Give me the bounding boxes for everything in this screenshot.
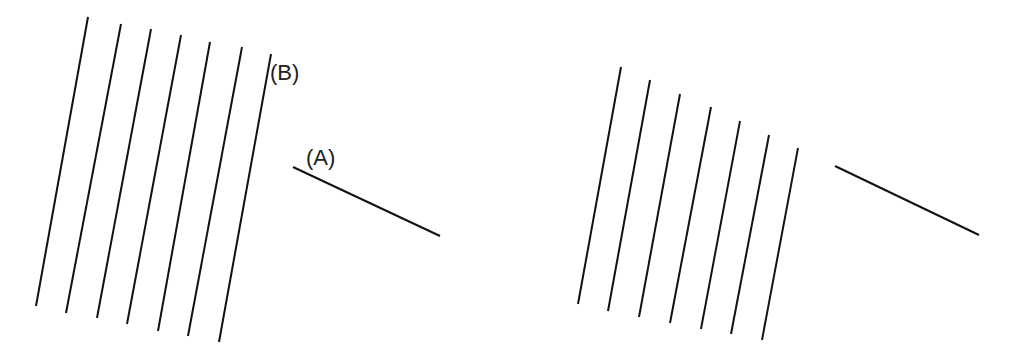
right-line-7 xyxy=(762,148,798,340)
label-a: (A) xyxy=(306,145,335,170)
figure-canvas: (B) (A) xyxy=(0,0,1011,362)
left-line-2 xyxy=(66,24,121,313)
left-line-7 xyxy=(219,54,271,342)
right-line-1 xyxy=(578,67,621,304)
left-line-5 xyxy=(158,42,210,331)
right-line-4 xyxy=(670,107,711,323)
left-segment-a xyxy=(293,167,440,236)
left-line-3 xyxy=(97,29,151,318)
right-segment xyxy=(835,166,979,235)
right-line-3 xyxy=(639,94,680,317)
left-line-1 xyxy=(36,17,88,306)
right-line-6 xyxy=(731,135,769,334)
right-parallel-lines xyxy=(578,67,798,340)
label-b: (B) xyxy=(270,60,299,85)
figure-svg: (B) (A) xyxy=(0,0,1011,362)
left-line-4 xyxy=(127,35,181,324)
left-parallel-lines-b xyxy=(36,17,271,342)
left-line-6 xyxy=(188,47,242,336)
right-line-2 xyxy=(608,80,650,311)
right-line-5 xyxy=(701,121,740,329)
